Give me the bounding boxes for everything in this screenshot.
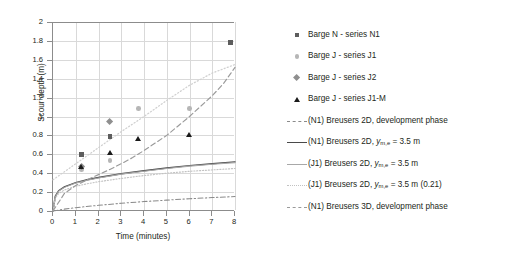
y-axis-tick — [47, 135, 52, 136]
legend-line-dash-dot-icon — [287, 121, 307, 122]
legend-circle-marker-icon — [295, 54, 300, 59]
data-point-circle — [187, 106, 192, 111]
x-axis-tick-label: 4 — [133, 218, 153, 226]
legend-item[interactable]: Barge J - series J1 — [286, 46, 502, 68]
data-point-triangle — [107, 150, 113, 155]
legend-line-solid-light-icon — [287, 164, 307, 165]
scour-depth-chart: 00.20.40.60.811.21.41.61.82 012345678 Sc… — [0, 0, 506, 258]
x-axis-tick-label: 1 — [65, 218, 85, 226]
y-axis-tick — [47, 192, 52, 193]
y-axis-tick-label: 0.6 — [21, 150, 43, 158]
curve-layer — [53, 22, 235, 211]
x-axis-tick-label: 5 — [156, 218, 176, 226]
curve-dash-dot — [53, 197, 235, 211]
chart-legend: Barge N - series N1Barge J - series J1Ba… — [286, 24, 502, 218]
legend-item[interactable]: (J1) Breusers 2D, ym,e = 3.5 m — [286, 154, 502, 176]
data-point-square — [228, 40, 233, 45]
x-axis-tick-label: 7 — [201, 218, 221, 226]
legend-item[interactable]: Barge N - series N1 — [286, 24, 502, 46]
x-axis-tick-label: 6 — [179, 218, 199, 226]
data-point-triangle — [135, 136, 141, 141]
y-axis-tick — [47, 41, 52, 42]
legend-label: Barge J - series J1-M — [308, 95, 386, 103]
legend-line-swatch — [286, 116, 308, 126]
x-axis-tick — [234, 211, 235, 216]
legend-square-marker-icon — [295, 33, 300, 38]
x-axis-tick — [52, 211, 53, 216]
legend-label: (J1) Breusers 2D, ym,e = 3.5 m — [308, 160, 418, 169]
data-point-circle — [136, 106, 141, 111]
y-axis-tick — [47, 117, 52, 118]
data-point-triangle — [78, 164, 84, 169]
data-point-circle — [108, 158, 113, 163]
x-axis-tick — [143, 211, 144, 216]
legend-label: (N1) Breusers 2D, development phase — [308, 117, 448, 125]
x-axis-tick — [166, 211, 167, 216]
y-axis-tick-label: 0 — [21, 207, 43, 215]
x-axis-tick — [98, 211, 99, 216]
plot-area — [52, 22, 234, 211]
legend-marker-swatch — [286, 73, 308, 83]
y-axis-tick — [47, 154, 52, 155]
x-axis-tick-label: 3 — [110, 218, 130, 226]
legend-label: (N1) Breusers 3D, development phase — [308, 203, 448, 211]
legend-line-swatch — [286, 138, 308, 148]
y-axis-tick — [47, 60, 52, 61]
y-axis-tick — [47, 173, 52, 174]
legend-marker-swatch — [286, 30, 308, 40]
gridline-vertical — [235, 22, 236, 210]
legend-item[interactable]: (N1) Breusers 2D, development phase — [286, 110, 502, 132]
x-axis-tick-label: 0 — [42, 218, 62, 226]
x-axis-tick — [120, 211, 121, 216]
legend-label: Barge N - series N1 — [308, 31, 380, 39]
legend-line-swatch — [286, 181, 308, 191]
y-axis-tick — [47, 79, 52, 80]
y-axis-tick-label: 2 — [21, 18, 43, 26]
curve-dashed — [53, 67, 235, 211]
data-point-triangle — [186, 132, 192, 137]
legend-line-swatch — [286, 203, 308, 213]
y-axis-tick-label: 1.8 — [21, 37, 43, 45]
x-axis-tick-label: 8 — [224, 218, 244, 226]
legend-line-solid-dark-icon — [287, 142, 307, 143]
legend-label: (N1) Breusers 2D, ym,e = 3.5 m — [308, 138, 420, 147]
x-axis-tick — [75, 211, 76, 216]
curve-dotted — [53, 168, 235, 211]
y-axis-tick — [47, 22, 52, 23]
legend-item[interactable]: Barge J - series J2 — [286, 67, 502, 89]
data-point-square — [108, 134, 113, 139]
legend-line-dashed-icon — [287, 207, 307, 208]
legend-marker-swatch — [286, 51, 308, 61]
legend-line-dotted-icon — [287, 185, 307, 186]
x-axis-title: Time (minutes) — [78, 232, 208, 241]
legend-label: (J1) Breusers 2D, ym,e = 3.5 m (0.21) — [308, 181, 442, 190]
x-axis-tick-label: 2 — [88, 218, 108, 226]
legend-triangle-marker-icon — [294, 97, 300, 102]
x-axis-tick — [189, 211, 190, 216]
plot-top-border — [52, 22, 234, 23]
legend-label: Barge J - series J1 — [308, 52, 376, 60]
legend-item[interactable]: Barge J - series J1-M — [286, 89, 502, 111]
legend-marker-swatch — [286, 95, 308, 105]
legend-diamond-marker-icon — [293, 74, 300, 81]
y-axis-title: Scour depth (m) — [37, 48, 46, 138]
y-axis-tick-label: 0.4 — [21, 169, 43, 177]
y-axis-tick-label: 0.2 — [21, 188, 43, 196]
legend-item[interactable]: (N1) Breusers 2D, ym,e = 3.5 m — [286, 132, 502, 154]
legend-item[interactable]: (N1) Breusers 3D, development phase — [286, 197, 502, 219]
legend-label: Barge J - series J2 — [308, 74, 376, 82]
legend-line-swatch — [286, 159, 308, 169]
legend-item[interactable]: (J1) Breusers 2D, ym,e = 3.5 m (0.21) — [286, 175, 502, 197]
y-axis-tick — [47, 98, 52, 99]
data-point-square — [79, 152, 84, 157]
x-axis-tick — [211, 211, 212, 216]
